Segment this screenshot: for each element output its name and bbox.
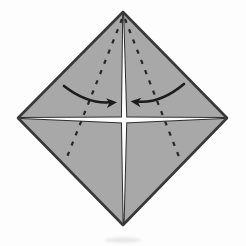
origami-diagram (0, 0, 246, 246)
diagram-stage (0, 0, 246, 246)
scan-smudge (105, 237, 141, 242)
